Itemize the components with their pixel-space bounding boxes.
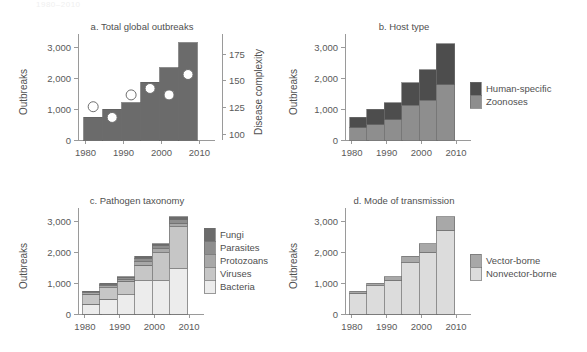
panel-b-bar-segment (402, 105, 421, 140)
panel-a-y-tick-label: 1,000 (47, 104, 71, 115)
panel-d-y-tick-label: 3,000 (314, 216, 338, 227)
panel-c-bar-segment (100, 299, 119, 314)
legend-swatch (470, 254, 481, 267)
panel-c-bar-segment (152, 245, 171, 248)
panel-b-bar-segment (367, 109, 386, 124)
legend-label: Bacteria (220, 281, 256, 292)
panel-a-y2-tick-label: 175 (229, 49, 245, 60)
panel-d-x-tick-label: 1980 (341, 321, 362, 332)
panel-c-x-tick-label: 1980 (74, 321, 95, 332)
panel-d-title: d. Mode of transmission (354, 195, 455, 206)
panel-a-x-tick-label: 1980 (75, 147, 96, 158)
panel-a-y2-tick-label: 125 (229, 102, 245, 113)
panel-c-bar-segment (83, 291, 102, 292)
panel-b-y-tick-label: 0 (333, 135, 338, 146)
panel-a-data-point (164, 90, 174, 100)
four-panel-figure: a. Total global outbreaks01,0002,0003,00… (0, 0, 587, 352)
panel-c-legend: FungiParasitesProtozoansVirusesBacteria (204, 228, 268, 293)
panel-d-bar-segment (367, 283, 386, 285)
panel-a-data-point (145, 83, 155, 93)
panel-d-x-tick-label: 1990 (376, 321, 397, 332)
panel-c-bar-segment (83, 294, 102, 304)
panel-b: b. Host type01,0002,0003,000Outbreaks198… (288, 21, 552, 158)
legend-swatch (204, 254, 215, 267)
legend-swatch (204, 267, 215, 280)
panel-a-y2-tick-label: 100 (229, 129, 245, 140)
legend-swatch (470, 267, 481, 280)
panel-a-bar (84, 117, 103, 140)
panel-d: d. Mode of transmission01,0002,0003,000O… (288, 195, 557, 332)
panel-c-bar-segment (169, 220, 188, 223)
panel-b-bar-segment (402, 83, 421, 106)
panel-b-y-tick-label: 1,000 (314, 104, 338, 115)
panel-c-x-tick-label: 2010 (178, 321, 199, 332)
legend-swatch (204, 280, 215, 293)
panel-a-y-tick-label: 2,000 (47, 73, 71, 84)
panel-c-bar-segment (135, 265, 154, 280)
panel-d-y-tick-label: 2,000 (314, 247, 338, 258)
panel-d-x-tick-label: 2010 (445, 321, 466, 332)
panel-c-bar-segment (100, 283, 119, 284)
legend-label: Protozoans (220, 255, 268, 266)
panel-a-bar (122, 103, 140, 140)
panel-c-bar-segment (135, 258, 154, 261)
panel-a-bar (160, 68, 179, 140)
panel-c-title: c. Pathogen taxonomy (90, 195, 185, 206)
panel-a-bar (179, 43, 198, 140)
panel-c-bar-segment (152, 244, 171, 246)
panel-d-bar-segment (436, 217, 455, 231)
panel-b-bar-segment (419, 70, 438, 101)
panel-b-bar-segment (436, 85, 455, 140)
panel-c-bar-segment (117, 277, 136, 278)
panel-c-bar-segment (152, 249, 171, 253)
panel-a-y-tick-label: 0 (66, 135, 71, 146)
panel-d-bar-segment (384, 280, 403, 314)
legend-label: Viruses (220, 268, 252, 279)
panel-c-y-tick-label: 2,000 (47, 247, 71, 258)
panel-b-y-axis-title: Outbreaks (288, 69, 299, 115)
panel-c-x-tick-label: 2000 (144, 321, 165, 332)
panel-c-bar-segment (169, 217, 188, 220)
panel-d-bar-segment (402, 263, 421, 314)
panel-c-bar-segment (169, 223, 188, 227)
panel-d-legend: Vector-borneNonvector-borne (470, 254, 557, 280)
panel-b-bar-segment (367, 125, 386, 140)
panel-d-bar-segment (350, 293, 369, 314)
panel-b-x-tick-label: 1980 (341, 147, 362, 158)
panel-d-bar-segment (384, 277, 403, 280)
legend-label: Fungi (220, 229, 244, 240)
panel-c-bar-segment (169, 269, 188, 314)
panel-a-data-point (183, 70, 193, 80)
panel-a-data-point (126, 90, 136, 100)
legend-swatch (470, 82, 481, 95)
panel-a-data-point (107, 112, 117, 122)
panel-d-bar-segment (419, 244, 438, 253)
panel-b-bar-segment (436, 44, 455, 85)
panel-b-bar-segment (419, 100, 438, 140)
panel-b-x-tick-label: 2010 (445, 147, 466, 158)
panel-a: a. Total global outbreaks01,0002,0003,00… (18, 21, 264, 158)
panel-d-x-tick-label: 2000 (411, 321, 432, 332)
panel-d-bar-segment (367, 286, 386, 314)
panel-b-legend: Human-specificZoonoses (470, 82, 552, 108)
panel-c: c. Pathogen taxonomy01,0002,0003,000Outb… (18, 195, 268, 332)
legend-label: Human-specific (486, 83, 552, 94)
panel-b-bar-segment (384, 120, 403, 140)
legend-swatch (470, 95, 481, 108)
panel-d-y-tick-label: 1,000 (314, 278, 338, 289)
legend-swatch (204, 241, 215, 254)
panel-b-bar-segment (350, 128, 369, 140)
panel-c-bar-segment (135, 262, 154, 265)
panel-c-bar-segment (83, 304, 102, 314)
panel-a-title: a. Total global outbreaks (91, 21, 194, 32)
panel-a-x-tick-label: 2000 (151, 147, 172, 158)
panel-c-bar-segment (117, 281, 136, 295)
panel-b-bar-segment (350, 117, 369, 127)
legend-label: Parasites (220, 242, 260, 253)
panel-d-bar-segment (419, 252, 438, 314)
panel-c-bar-segment (117, 295, 136, 314)
panel-b-bar-segment (384, 103, 403, 120)
panel-c-bar-segment (169, 227, 188, 269)
panel-c-bar-segment (152, 281, 171, 314)
panel-a-y-tick-label: 3,000 (47, 42, 71, 53)
